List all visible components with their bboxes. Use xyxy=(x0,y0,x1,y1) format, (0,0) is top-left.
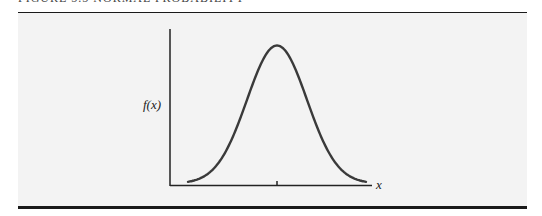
y-axis-label: f(x) xyxy=(143,97,161,112)
x-axis-label: x xyxy=(375,177,382,192)
normal-curve xyxy=(188,46,366,182)
normal-curve-chart: f(x) x xyxy=(0,0,542,216)
